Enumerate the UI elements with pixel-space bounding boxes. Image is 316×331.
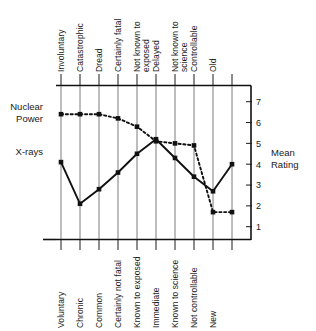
bottom-label-2: Common (94, 293, 104, 328)
y-axis-title-line2: Rating (271, 159, 298, 170)
data-point (192, 174, 197, 179)
y-tick-label: 3 (256, 180, 261, 190)
series-line (61, 114, 232, 212)
top-label-5: Delayed (151, 40, 161, 72)
top-label-7: Controllable (189, 25, 199, 72)
chart-canvas: 1234567 InvoluntaryCatastrophicDreadCert… (0, 0, 316, 331)
y-axis-labels: 1234567 (256, 97, 261, 232)
gridlines (61, 86, 232, 239)
top-category-labels: InvoluntaryCatastrophicDreadCertainly fa… (56, 19, 218, 72)
data-point (97, 112, 102, 117)
bottom-label-4: Known to exposed (132, 256, 142, 328)
y-tick-label: 4 (256, 160, 261, 170)
data-point (78, 201, 83, 206)
y-tick-label: 1 (256, 222, 261, 232)
data-point (173, 141, 178, 146)
bottom-label-8: New (208, 310, 218, 328)
y-tick-label: 2 (256, 201, 261, 211)
series-line (61, 139, 232, 204)
series-label-xrays: X-rays (16, 146, 44, 157)
data-point (154, 137, 159, 142)
bottom-ticks (61, 240, 232, 250)
bottom-label-5: Immediate (151, 287, 161, 328)
top-label-8: Old (208, 58, 218, 72)
y-tick-label: 7 (256, 97, 261, 107)
bottom-label-0: Voluntary (56, 291, 66, 328)
data-point (192, 143, 197, 148)
data-point (173, 156, 178, 161)
data-point (116, 116, 121, 121)
data-point (59, 160, 64, 165)
data-point (230, 210, 235, 215)
series-label-nuclear-power-line1: Nuclear (10, 101, 43, 112)
top-label-1: Catastrophic (75, 22, 85, 72)
top-label-0: Involuntary (56, 29, 66, 72)
bottom-label-1: Chronic (75, 297, 85, 328)
y-axis-title-line1: Mean (271, 147, 295, 158)
plot-frame (43, 86, 251, 241)
bottom-label-7: Not controllable (189, 267, 199, 328)
data-point (211, 210, 216, 215)
series-label-nuclear-power-line2: Power (16, 113, 43, 124)
risk-perception-chart: 1234567 InvoluntaryCatastrophicDreadCert… (0, 0, 316, 331)
data-point (116, 170, 121, 175)
data-point (230, 162, 235, 167)
top-label-4-line2: exposed (141, 39, 151, 72)
bottom-label-6: Known to science (170, 260, 180, 328)
data-point (78, 112, 83, 117)
top-label-3: Certainly fatal (113, 19, 123, 72)
data-point (135, 124, 140, 129)
data-point (59, 112, 64, 117)
data-point (135, 151, 140, 156)
top-ticks (61, 74, 232, 85)
top-label-6-line2: science (179, 42, 189, 72)
bottom-category-labels: VoluntaryChronicCommonCertainly not fata… (56, 256, 218, 328)
bottom-label-3: Certainly not fatal (113, 260, 123, 328)
data-point (211, 189, 216, 194)
y-tick-label: 5 (256, 139, 261, 149)
y-tick-label: 6 (256, 118, 261, 128)
top-label-2: Dread (94, 48, 104, 72)
data-point (97, 187, 102, 192)
